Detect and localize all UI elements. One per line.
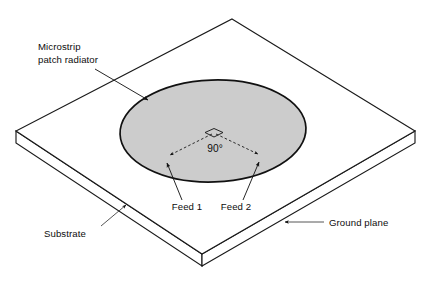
ground-plane-callout: Ground plane <box>285 217 388 228</box>
ground-plane-label: Ground plane <box>329 217 388 228</box>
figure-container: 90° Feed 1 Feed 2 Microstrip patch radia… <box>0 0 429 282</box>
substrate-callout: Substrate <box>44 205 126 239</box>
feed1-label: Feed 1 <box>172 201 202 212</box>
antenna-diagram: 90° Feed 1 Feed 2 Microstrip patch radia… <box>0 0 429 282</box>
substrate-label: Substrate <box>44 228 86 239</box>
patch-radiator-label-line2: patch radiator <box>38 54 99 65</box>
angle-label: 90° <box>207 143 222 154</box>
patch-radiator-label-line1: Microstrip <box>38 41 81 52</box>
feed2-label: Feed 2 <box>221 201 251 212</box>
